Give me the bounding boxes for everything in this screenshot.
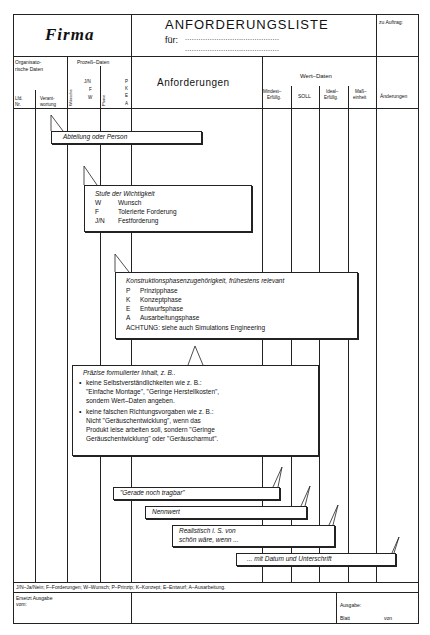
ideal-text: schön wäre, wenn ... [179,536,239,544]
sheet-of-label: von [384,614,392,622]
bullet-icon: • [79,408,81,416]
precise-title: Präzise formulierter Inhalt, z. B.. [83,369,175,377]
phase-label: Ausarbeitungsphase [140,314,199,322]
nominal-text: Nennwert [152,508,180,516]
phase-label: Prinzipphase [140,287,178,295]
bullet-icon: • [79,379,81,387]
phase-code: A [126,314,130,322]
precise-text: keine Selbstverständlichkeiten wie z. B.… [86,379,202,387]
precise-text: Produkt leise arbeiten soll, sondern "Ge… [86,426,215,434]
phase-note: ACHTUNG: siehe auch Simulations Engineer… [126,324,265,332]
phase-label: Konzeptphase [140,296,182,304]
phase-label: Entwurfsphase [140,305,183,313]
replaces-date-label: vom: [16,601,27,607]
importance-code: J/N [95,217,105,225]
callout-precise: Präzise formulierter Inhalt, z. B.. • ke… [72,365,319,456]
importance-label: Wunsch [118,199,141,207]
department-text: Abteilung oder Person [63,133,127,141]
phase-code: P [126,287,130,295]
precise-text: Geräuschentwicklung" oder "Geräuscharmut… [86,435,218,443]
issue-label: Ausgabe: [340,601,361,609]
importance-label: Tolerierte Forderung [118,208,177,216]
sheet-label: Blatt [340,614,350,622]
phase-title: Konstruktionsphasenzugehörigkeit, frühes… [126,277,284,285]
importance-code: F [95,208,99,216]
precise-text: keine falschen Richtungsvorgaben wie z. … [86,408,214,416]
precise-text: Nicht "Geräuschentwicklung", wenn das [86,417,201,425]
importance-label: Festforderung [118,217,158,225]
importance-title: Stufe der Wichtigkeit [95,190,155,198]
signature-text: ... mit Datum und Unterschrift [247,555,332,563]
callout-ideal: Realistisch i. S. von schön wäre, wenn .… [172,525,335,547]
ideal-text: Realistisch i. S. von [179,527,236,535]
callout-min-value: "Gerade noch tragbar" [113,487,280,500]
callout-nominal: Nennwert [145,506,307,519]
min-value-text: "Gerade noch tragbar" [120,489,185,497]
callout-phase: Konstruktionsphasenzugehörigkeit, frühes… [115,272,358,339]
footer-legend: J/N–Ja/Nein; F–Forderungen; W–Wunsch; P–… [16,584,225,591]
precise-text: sondern Wert–Daten angeben. [86,397,175,405]
callout-importance: Stufe der Wichtigkeit W Wunsch F Tolerie… [84,185,252,232]
importance-code: W [95,199,101,207]
precise-text: "Einfache Montage", "Geringe Herstellkos… [86,388,219,396]
phase-code: K [126,296,130,304]
callout-department: Abteilung oder Person [51,131,202,144]
callout-signature: ... mit Datum und Unterschrift [236,553,396,566]
phase-code: E [126,305,130,313]
